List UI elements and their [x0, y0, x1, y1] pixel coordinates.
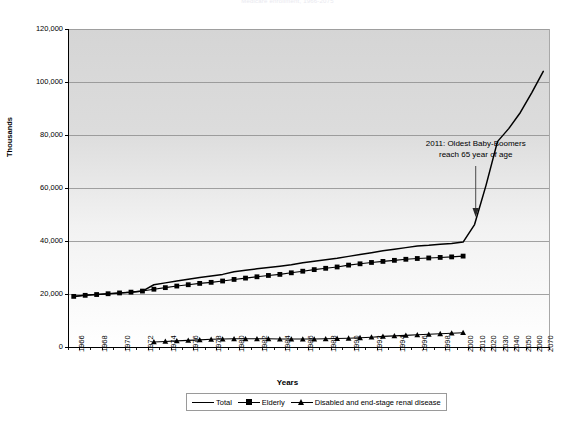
plot-canvas [0, 0, 575, 430]
x-tick-label: 1980 [237, 335, 246, 352]
x-tick-label: 1996 [420, 335, 429, 352]
x-tick-label: 2030 [501, 335, 510, 352]
x-tick-label: 1984 [283, 335, 292, 352]
x-tick-label: 1966 [77, 335, 86, 352]
baby-boomer-annotation: 2011: Oldest Baby-Boomers reach 65 year … [366, 138, 575, 160]
y-tick-label: 20,000 [0, 290, 63, 298]
x-tick-label: 1982 [260, 335, 269, 352]
x-tick-label: 1988 [329, 335, 338, 352]
x-tick-label: 2040 [512, 335, 521, 352]
x-tick-label: 2010 [478, 335, 487, 352]
x-tick-label: 2000 [466, 335, 475, 352]
x-tick-label: 1990 [352, 335, 361, 352]
legend-label: Elderly [262, 398, 285, 407]
x-tick-label: 1976 [191, 335, 200, 352]
y-tick-label: 40,000 [0, 237, 63, 245]
y-tick-label: 0 [0, 343, 63, 351]
annotation-line-2: reach 65 year of age [366, 149, 575, 160]
x-tick-label: 2050 [524, 335, 533, 352]
annotation-line-1: 2011: Oldest Baby-Boomers [366, 138, 575, 149]
x-tick-label: 2070 [546, 335, 555, 352]
legend-item: Disabled and end-stage renal disease [291, 398, 441, 407]
x-tick-label: 2020 [489, 335, 498, 352]
legend-swatch-line-icon [192, 398, 214, 407]
y-tick-label: 60,000 [0, 184, 63, 192]
x-tick-label: 1986 [306, 335, 315, 352]
legend-label: Total [216, 398, 232, 407]
medicare-enrollment-chart: Medicare enrollment, 1966-2075 Thousands… [0, 0, 575, 430]
legend-item: Total [192, 398, 232, 407]
x-tick-label: 1978 [214, 335, 223, 352]
x-tick-label: 1974 [169, 335, 178, 352]
x-tick-label: 2060 [535, 335, 544, 352]
x-tick-label: 1968 [100, 335, 109, 352]
x-tick-label: 1998 [443, 335, 452, 352]
x-tick-label: 1992 [375, 335, 384, 352]
legend-swatch-square-icon [238, 398, 260, 407]
y-tick-label: 80,000 [0, 131, 63, 139]
y-tick-label: 100,000 [0, 78, 63, 86]
x-tick-label: 1994 [398, 335, 407, 352]
chart-legend: TotalElderlyDisabled and end-stage renal… [186, 393, 447, 411]
legend-swatch-triangle-icon [291, 398, 313, 407]
y-tick-label: 120,000 [0, 25, 63, 33]
x-axis-title: Years [0, 378, 575, 387]
x-tick-label: 1970 [123, 335, 132, 352]
legend-label: Disabled and end-stage renal disease [315, 398, 441, 407]
x-tick-label: 1972 [146, 335, 155, 352]
legend-item: Elderly [238, 398, 285, 407]
